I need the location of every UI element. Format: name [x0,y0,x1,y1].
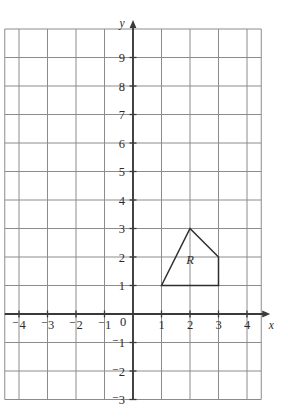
x-axis-name: x [268,319,275,331]
y-tick-label: 7 [119,108,125,122]
y-tick-label: 9 [119,51,125,65]
x-tick-label: ⁻2 [69,318,82,332]
y-tick-label: 6 [119,137,125,151]
region-label-R: R [185,253,194,267]
y-tick-label: ⁻1 [112,336,125,350]
y-tick-label: 1 [119,279,125,293]
y-axis-arrowhead [130,20,137,28]
y-tick-label: 4 [119,194,126,208]
y-tick-label: 2 [119,251,125,265]
y-tick-label: 5 [119,165,125,179]
x-tick-label: 3 [215,318,221,332]
grid-svg: ⁻4⁻3⁻2⁻101234⁻3⁻2⁻1123456789xyR [0,0,288,417]
x-tick-label: 2 [187,318,193,332]
y-tick-label: ⁻2 [112,365,125,379]
y-tick-label: 8 [119,80,125,94]
x-tick-label: 1 [158,318,164,332]
x-tick-label: ⁻4 [12,318,26,332]
y-tick-label: 3 [119,222,125,236]
y-tick-label: ⁻3 [112,393,125,407]
x-tick-label: ⁻1 [98,318,111,332]
x-tick-label: 4 [244,318,251,332]
y-axis-name: y [118,17,125,30]
tick-labels-group: ⁻4⁻3⁻2⁻101234⁻3⁻2⁻1123456789xy [12,17,274,407]
origin-label: 0 [120,315,126,329]
x-axis-arrowhead [262,311,270,318]
x-tick-label: ⁻3 [41,318,54,332]
coordinate-plane: ⁻4⁻3⁻2⁻101234⁻3⁻2⁻1123456789xyR [0,0,288,417]
